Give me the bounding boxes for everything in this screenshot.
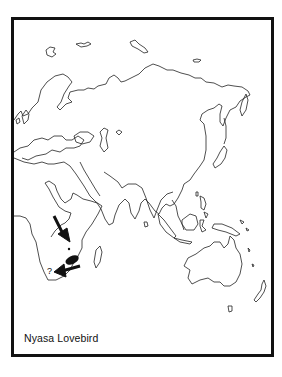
vanuatu-fiji-outline [248,248,254,267]
severnaya-zemlya-outline [193,59,201,62]
borneo-outline [182,214,198,230]
lovebird-range-dot [68,248,70,250]
taiwan-outline [196,192,198,196]
novaya-zemlya-outline [130,40,148,53]
kamchatka-outline [240,94,248,116]
mediterranean-coast-outline [14,136,84,160]
new-guinea-outline [212,224,240,236]
black-sea-outline [74,132,94,144]
lovebird-range-main [66,255,79,265]
philippines-outline [200,196,208,218]
franz-josef-outline [76,42,91,47]
svalbard-outline [46,47,56,57]
british-isles-outline [16,110,29,124]
aral-sea-outline [116,130,122,135]
red-sea-outline [80,162,100,196]
solomon-islands-outline [240,220,249,231]
map-frame: ? Nyasa Lovebird [11,17,274,357]
madagascar-outline [94,246,102,268]
eurasia-outline [14,64,250,237]
map-caption: Nyasa Lovebird [24,332,98,344]
sri-lanka-outline [144,222,148,227]
java-outline [174,238,192,244]
persian-gulf-outline [104,172,122,188]
new-zealand-outline [254,280,266,302]
sulawesi-outline [200,220,206,232]
australia-outline [184,236,242,286]
uncertain-range-label: ? [47,266,52,276]
japan-outline [213,146,227,168]
sumatra-outline [158,214,176,238]
arrow-secondary-range-icon [54,264,80,277]
world-map: ? [14,20,271,354]
caspian-sea-outline [100,128,108,152]
tasmania-outline [228,306,232,312]
africa-outline [14,158,102,280]
